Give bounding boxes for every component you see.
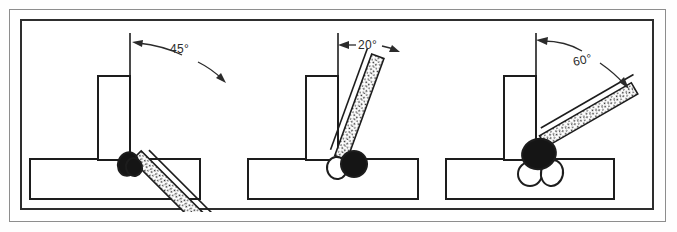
angle-label-45: 45° — [170, 42, 189, 56]
figure-root: 45° — [0, 0, 677, 232]
panel-60-degree: 60° — [442, 21, 656, 212]
panel-45-degree: 45° — [22, 21, 234, 212]
angle-label-20: 20° — [358, 38, 377, 52]
panel-60-drawing — [442, 21, 656, 212]
vertical-plate — [306, 76, 338, 160]
panel-20-degree: 20° — [234, 21, 442, 212]
angle-arrowhead-right — [389, 45, 400, 52]
vertical-plate — [98, 76, 130, 160]
panel-45-drawing — [22, 21, 234, 212]
inner-frame-border: 45° — [20, 19, 654, 210]
angle-arrowhead-left — [132, 40, 143, 47]
angle-arrowhead-left — [338, 41, 349, 49]
panel-20-drawing — [234, 21, 442, 212]
angle-arrowhead-left — [536, 37, 548, 45]
